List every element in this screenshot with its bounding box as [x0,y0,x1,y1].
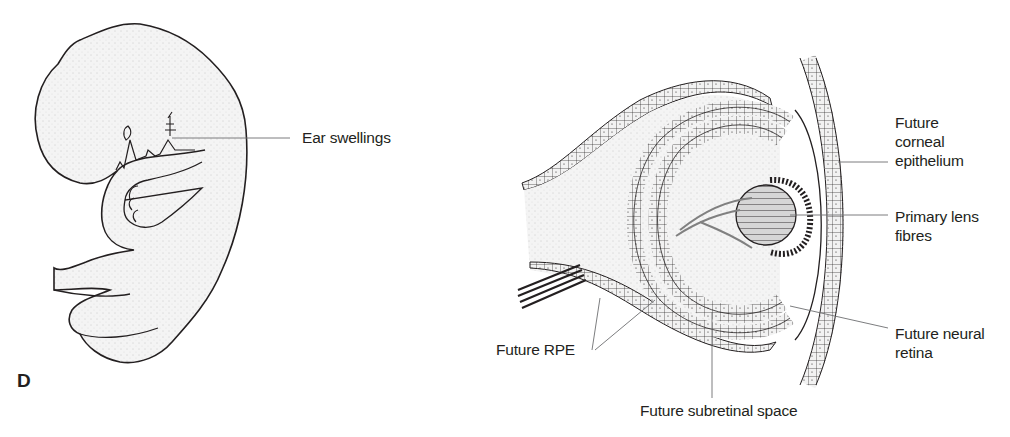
label-future-corneal-epithelium: Future corneal epithelium [895,113,964,170]
panel-letter: D [17,370,31,392]
label-primary-lens-fibres: Primary lens fibres [895,207,979,245]
label-ear-swellings: Ear swellings [302,128,391,147]
embryo-drawing [35,24,290,363]
label-future-neural-retina: Future neural retina [895,324,985,362]
label-future-rpe: Future RPE [496,340,575,359]
leader-rpe [592,298,600,350]
figure-artwork [0,0,1010,437]
label-future-subretinal-space: Future subretinal space [640,401,797,420]
